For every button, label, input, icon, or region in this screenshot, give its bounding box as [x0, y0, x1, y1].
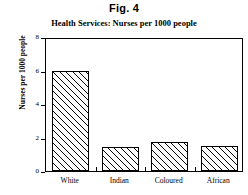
x-tick-mark: [145, 167, 146, 171]
x-tick-mark: [96, 167, 97, 171]
y-tick-label: 2: [36, 134, 40, 143]
x-tick-label-african: African: [194, 176, 244, 186]
x-tick-mark: [195, 167, 196, 171]
y-tick-label: 0: [36, 167, 40, 176]
bar-african: [201, 146, 238, 171]
bar-coloured: [151, 142, 188, 171]
y-tick-mark: [41, 172, 45, 173]
y-axis-label: Nurses per 1000 people: [18, 13, 27, 133]
x-tick-label-white: White: [45, 176, 95, 186]
bar-indian: [102, 147, 139, 171]
bar-white: [52, 71, 89, 172]
plot-area: [45, 38, 243, 172]
chart-title: Health Services: Nurses per 1000 people: [0, 18, 248, 28]
x-tick-label-indian: Indian: [95, 176, 145, 186]
y-tick-label: 6: [36, 67, 40, 76]
figure-container: Fig. 4 Health Services: Nurses per 1000 …: [0, 0, 248, 195]
x-tick-label-coloured: Coloured: [144, 176, 194, 186]
plot-inner: [46, 39, 242, 171]
y-tick-label: 8: [36, 33, 40, 42]
y-tick-label: 4: [36, 100, 40, 109]
figure-title: Fig. 4: [0, 2, 248, 14]
